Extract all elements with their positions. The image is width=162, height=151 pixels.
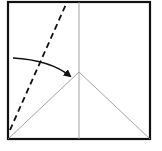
origami-diagram: [0, 0, 162, 151]
